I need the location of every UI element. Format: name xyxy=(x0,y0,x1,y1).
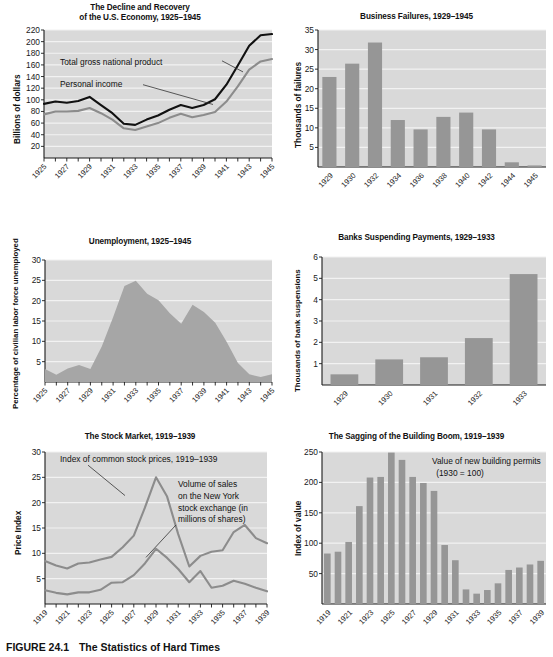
y-tick-label: 60 xyxy=(31,118,41,128)
y-tick-label: 4 xyxy=(313,295,318,305)
x-tick-label: 1945 xyxy=(522,171,540,189)
bar xyxy=(322,77,336,167)
annotation-label: Index of common stock prices, 1919–1939 xyxy=(60,454,218,464)
bar xyxy=(377,477,384,604)
y-tick-label: 10 xyxy=(32,548,42,558)
bar xyxy=(345,542,352,604)
x-tick-label: 1929 xyxy=(421,608,439,626)
annotation-label: (1930 = 100) xyxy=(436,468,484,478)
figure-container: The Decline and Recovery of the U.S. Eco… xyxy=(0,0,553,657)
bar xyxy=(484,590,491,604)
x-tick-label: 1930 xyxy=(376,389,394,407)
x-tick-label: 1933 xyxy=(511,389,529,407)
x-tick-label: 1927 xyxy=(400,608,418,626)
y-tick-label: 35 xyxy=(305,25,315,35)
y-tick-label: 100 xyxy=(304,538,318,548)
bar xyxy=(324,554,331,604)
y-tick-label: 25 xyxy=(32,472,42,482)
bar xyxy=(465,338,493,385)
bar xyxy=(505,570,512,604)
x-tick-label: 1935 xyxy=(145,386,163,404)
annotation-label: Value of new building permits xyxy=(432,456,541,466)
y-tick-label: 50 xyxy=(309,569,319,579)
x-tick-label: 1925 xyxy=(31,386,49,404)
bar xyxy=(409,477,416,604)
x-tick-label: 1929 xyxy=(331,389,349,407)
y-tick-label: 30 xyxy=(305,45,315,55)
bar xyxy=(516,568,523,604)
x-tick-label: 1932 xyxy=(362,171,380,189)
bar xyxy=(391,120,405,167)
y-tick-label: 5 xyxy=(313,273,318,283)
x-tick-label: 1933 xyxy=(464,608,482,626)
y-tick-label: 140 xyxy=(26,72,40,82)
y-tick-label: 160 xyxy=(26,60,40,70)
bar xyxy=(452,560,459,604)
bar xyxy=(463,589,470,604)
x-tick-label: 1945 xyxy=(258,162,276,180)
x-tick-label: 1931 xyxy=(442,608,460,626)
bar xyxy=(527,564,534,604)
bar xyxy=(431,491,438,604)
y-tick-label: 15 xyxy=(305,103,315,113)
y-tick-label: 200 xyxy=(304,477,318,487)
y-tick-label: 100 xyxy=(26,95,40,105)
bar xyxy=(537,561,544,604)
bar xyxy=(528,165,542,167)
y-tick-label: 40 xyxy=(31,130,41,140)
x-tick-label: 1933 xyxy=(122,386,140,404)
x-tick-label: 1933 xyxy=(186,608,204,626)
annotation-label: Personal income xyxy=(60,79,123,89)
bar xyxy=(436,117,450,167)
y-tick-label: 20 xyxy=(31,141,41,151)
x-tick-label: 1929 xyxy=(316,171,334,189)
panel-bank-suspensions-plot: 12345619291930193119321933 xyxy=(280,215,553,430)
x-tick-label: 1938 xyxy=(430,171,448,189)
x-tick-label: 1934 xyxy=(385,171,403,189)
panel-building-boom-plot: 5010015020025019191921192319251927192919… xyxy=(280,430,553,640)
bar xyxy=(356,506,363,604)
figure-caption-number: FIGURE 24.1 xyxy=(6,641,69,653)
x-tick-label: 1941 xyxy=(212,162,230,180)
panel-gnp-plot: 2040608010012014016018020022019251927192… xyxy=(0,0,280,215)
y-tick-label: 25 xyxy=(305,64,315,74)
y-tick-label: 5 xyxy=(309,142,314,152)
bar xyxy=(375,359,403,385)
y-tick-label: 20 xyxy=(32,498,42,508)
y-tick-label: 3 xyxy=(313,316,318,326)
x-tick-label: 1927 xyxy=(120,608,138,626)
annotation-label: Volume of sales xyxy=(178,479,237,489)
panel-unemployment: Unemployment, 1925–1945 Percentage of ci… xyxy=(0,215,280,430)
panel-gnp: The Decline and Recovery of the U.S. Eco… xyxy=(0,0,280,215)
y-tick-label: 6 xyxy=(313,252,318,262)
y-tick-label: 120 xyxy=(26,83,40,93)
x-tick-label: 1929 xyxy=(142,608,160,626)
y-tick-label: 15 xyxy=(32,523,42,533)
y-tick-label: 200 xyxy=(26,37,40,47)
figure-caption: FIGURE 24.1 The Statistics of Hard Times xyxy=(6,641,220,653)
y-tick-label: 15 xyxy=(32,316,42,326)
annotation-label: on the New York xyxy=(178,491,240,501)
y-tick-label: 10 xyxy=(32,336,42,346)
x-tick-label: 1925 xyxy=(378,608,396,626)
bar xyxy=(473,594,480,604)
annotation-label: millions of shares) xyxy=(178,514,246,524)
bar xyxy=(345,64,359,167)
x-tick-label: 1931 xyxy=(99,386,117,404)
panel-unemployment-plot: 5101520253019251927192919311933193519371… xyxy=(0,215,280,430)
bar xyxy=(399,460,406,604)
panel-business-failures: Business Failures, 1929–1945 Thousands o… xyxy=(280,0,553,215)
x-tick-label: 1930 xyxy=(339,171,357,189)
bar xyxy=(414,129,428,167)
annotation-label: stock exchange (in xyxy=(178,503,248,513)
bar xyxy=(510,274,538,385)
y-tick-label: 150 xyxy=(304,508,318,518)
bar xyxy=(505,162,519,167)
bar xyxy=(388,453,395,604)
annotation-label: Total gross national product xyxy=(60,57,163,67)
y-tick-label: 80 xyxy=(31,106,41,116)
x-tick-label: 1939 xyxy=(528,608,546,626)
y-tick-label: 20 xyxy=(305,84,315,94)
y-tick-label: 1 xyxy=(313,359,318,369)
y-tick-label: 30 xyxy=(32,255,42,265)
